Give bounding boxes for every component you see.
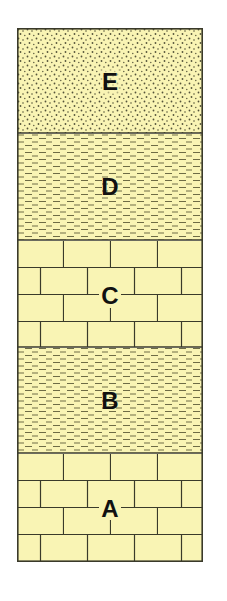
layer-a: A — [17, 454, 203, 562]
stratigraphic-column: E D C B A — [17, 28, 203, 562]
layer-label-e: E — [102, 68, 118, 95]
layer-e: E — [17, 28, 203, 133]
layer-label-c: C — [101, 282, 118, 309]
layer-label-d: D — [101, 173, 118, 200]
layer-b: B — [17, 348, 203, 453]
layer-d: D — [17, 134, 203, 240]
layer-label-b: B — [101, 387, 118, 414]
layer-c: C — [17, 241, 203, 347]
layer-label-a: A — [101, 495, 118, 522]
